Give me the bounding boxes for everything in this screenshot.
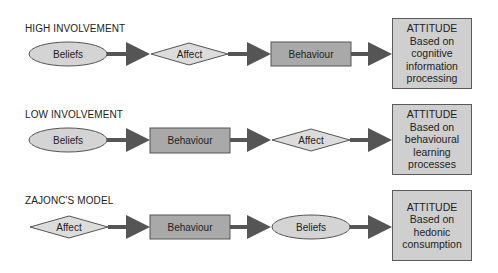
attitude-line: processes: [405, 158, 459, 171]
row-title-low-involvement: LOW INVOLVEMENT: [25, 109, 123, 120]
node-label-affect: Affect: [272, 132, 350, 148]
node-label-beliefs: Beliefs: [29, 132, 107, 148]
attitude-heading: ATTITUDE: [402, 201, 462, 214]
attitude-line: consumption: [402, 238, 462, 251]
node-label-beliefs: Beliefs: [29, 46, 107, 62]
attitude-heading: ATTITUDE: [405, 108, 459, 121]
node-label-affect: Affect: [30, 219, 108, 235]
node-label-affect: Affect: [151, 46, 228, 62]
attitude-box-hedonic: ATTITUDE Based on hedonic consumption: [392, 190, 472, 261]
row-title-high-involvement: HIGH INVOLVEMENT: [25, 23, 125, 34]
node-label-beliefs: Beliefs: [272, 219, 350, 235]
attitude-line: Based on: [406, 35, 458, 48]
node-label-behaviour: Behaviour: [150, 219, 230, 235]
attitude-line: hedonic: [402, 226, 462, 239]
attitude-line: information: [406, 60, 458, 73]
attitude-box-cognitive: ATTITUDE Based on cognitive information …: [392, 18, 472, 89]
attitude-line: processing: [406, 72, 458, 85]
attitude-line: Based on: [405, 121, 459, 134]
attitude-box-behavioural: ATTITUDE Based on behavioural learning p…: [392, 104, 472, 175]
attitude-line: cognitive: [406, 47, 458, 60]
attitude-line: behavioural: [405, 133, 459, 146]
attitude-line: learning: [405, 146, 459, 159]
node-label-behaviour: Behaviour: [150, 132, 230, 148]
attitude-line: Based on: [402, 213, 462, 226]
node-label-behaviour: Behaviour: [271, 46, 351, 62]
attitude-heading: ATTITUDE: [406, 22, 458, 35]
row-title-zajonc-model: ZAJONC'S MODEL: [25, 195, 113, 206]
